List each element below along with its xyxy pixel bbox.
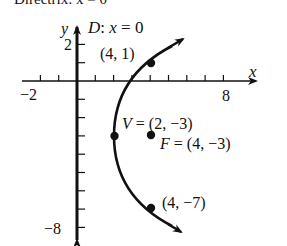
vertex-label: V = (2, −3) [122, 115, 192, 133]
tick-label-x-neg2: −2 [20, 86, 37, 103]
x-axis-label: x [248, 62, 257, 81]
tick-label-y-neg8: −8 [44, 220, 61, 237]
vertex-dot [110, 132, 118, 140]
point-lower-dot [147, 204, 155, 212]
point-upper-label: (4, 1) [100, 45, 135, 63]
tick-label-y-2: 2 [64, 36, 72, 53]
point-lower-label: (4, −7) [162, 194, 206, 212]
tick-label-x-8: 8 [222, 87, 230, 104]
directrix-label: D: x = 0 [87, 18, 143, 37]
parabola-graph: y D: x = 0 x 2 −2 8 −8 (4, 1) V = (2, −3… [0, 0, 287, 246]
focus-label: F = (4, −3) [159, 135, 230, 153]
focus-dot [147, 131, 155, 139]
point-upper-dot [147, 59, 155, 67]
